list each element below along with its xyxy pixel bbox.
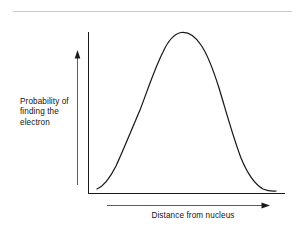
x-axis-label: Distance from nucleus [108, 211, 278, 221]
y-axis-label-line-1: Probability of [20, 97, 82, 107]
figure-canvas: Probability of finding the electron Dist… [0, 0, 305, 240]
probability-curve [97, 32, 276, 191]
y-axis-label-line-2: finding the [20, 107, 82, 117]
y-axis-label-line-3: electron [20, 118, 82, 128]
right-arrow-icon [107, 203, 270, 209]
y-axis-label: Probability of finding the electron [20, 97, 82, 128]
